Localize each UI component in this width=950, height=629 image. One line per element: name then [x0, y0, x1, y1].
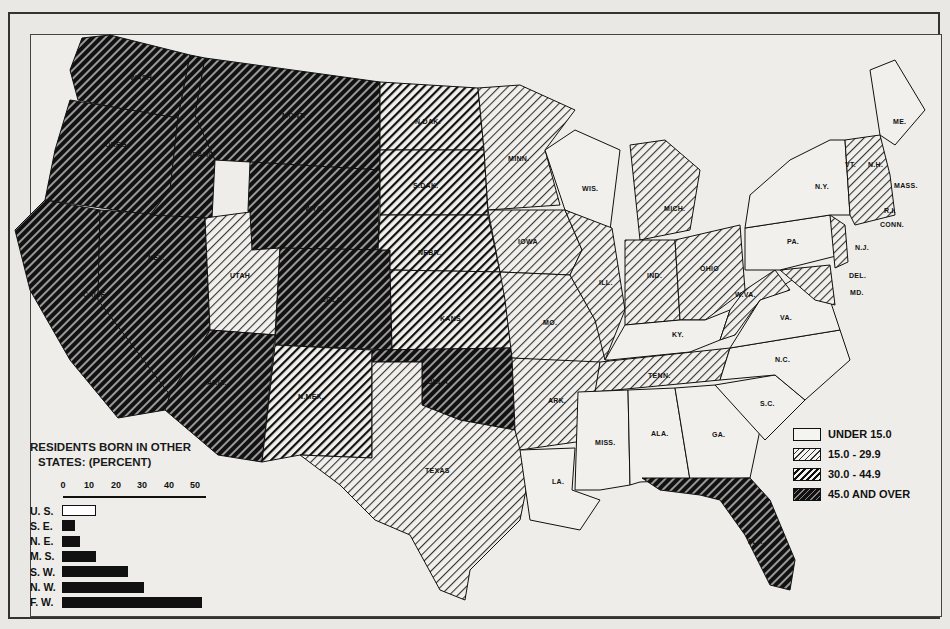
bar-chart-inset: RESIDENTS BORN IN OTHER STATES: (PERCENT… [30, 440, 220, 610]
svg-text:PA.: PA. [787, 238, 799, 245]
inset-title: RESIDENTS BORN IN OTHER STATES: (PERCENT… [30, 440, 220, 470]
legend-item-30-44: 30.0 - 44.9 [793, 464, 943, 484]
svg-text:N.DAK.: N.DAK. [415, 118, 441, 125]
bar-row: U. S. [30, 504, 96, 517]
svg-text:ARIZ.: ARIZ. [207, 379, 227, 386]
svg-text:KY.: KY. [672, 331, 684, 338]
bar [62, 566, 128, 577]
svg-text:W.VA.: W.VA. [735, 291, 756, 298]
svg-text:N.H.: N.H. [868, 161, 883, 168]
bar [62, 551, 96, 562]
state-nj[interactable] [830, 215, 848, 268]
svg-text:ARK.: ARK. [548, 397, 566, 404]
svg-text:CONN.: CONN. [880, 221, 904, 228]
svg-text:MINN.: MINN. [508, 155, 529, 162]
legend-item-15-29: 15.0 - 29.9 [793, 444, 943, 464]
bar-label: S. W. [30, 566, 62, 578]
state-mich[interactable] [630, 140, 700, 240]
bar [62, 536, 80, 547]
bar-label: U. S. [30, 505, 62, 517]
legend-item-under-15: UNDER 15.0 [793, 424, 943, 444]
svg-text:OHIO: OHIO [700, 265, 719, 272]
state-ny [745, 140, 850, 228]
svg-text:N.J.: N.J. [855, 244, 869, 251]
svg-text:WIS.: WIS. [582, 185, 598, 192]
legend-swatch-blank [793, 428, 821, 441]
svg-text:S.DAK.: S.DAK. [413, 182, 439, 189]
bar [62, 597, 202, 608]
legend-swatch-dark-hatch [793, 488, 821, 501]
state-me [870, 60, 925, 145]
svg-text:MISS.: MISS. [595, 439, 616, 446]
svg-text:MONT.: MONT. [282, 112, 305, 119]
bar-row: N. E. [30, 535, 80, 548]
svg-text:CALIF.: CALIF. [83, 291, 107, 298]
bar-row: M. S. [30, 550, 96, 563]
svg-text:COLO.: COLO. [321, 296, 345, 303]
svg-text:MD.: MD. [850, 289, 864, 296]
bar [62, 505, 96, 516]
svg-text:NEBR.: NEBR. [418, 249, 441, 256]
bar-label: M. S. [30, 550, 62, 562]
svg-text:TENN.: TENN. [648, 372, 671, 379]
legend-swatch-light-hatch [793, 448, 821, 461]
svg-text:ILL.: ILL. [599, 279, 613, 286]
svg-text:IND.: IND. [647, 272, 662, 279]
bar-row: S. E. [30, 519, 75, 532]
svg-text:KANS.: KANS. [440, 315, 463, 322]
bar-label: S. E. [30, 520, 62, 532]
inset-title-line2: STATES: (PERCENT) [30, 455, 220, 470]
svg-text:NEV.: NEV. [148, 254, 165, 261]
svg-text:ME.: ME. [893, 118, 906, 125]
x-axis-line [63, 496, 206, 498]
svg-text:OKLA.: OKLA. [427, 378, 450, 385]
bar-row: S. W. [30, 565, 128, 578]
svg-text:OREG.: OREG. [105, 141, 129, 148]
tick-0: 0 [60, 480, 65, 490]
svg-text:MO.: MO. [543, 319, 557, 326]
svg-text:WYO.: WYO. [305, 205, 325, 212]
legend-label: 45.0 AND OVER [828, 488, 910, 500]
tick-40: 40 [164, 480, 174, 490]
svg-text:N.C.: N.C. [775, 356, 790, 363]
bar-label: F. W. [30, 596, 62, 608]
state-oreg[interactable] [45, 100, 178, 215]
state-fla[interactable] [642, 478, 795, 590]
bar [62, 520, 75, 531]
svg-text:IOWA: IOWA [518, 238, 538, 245]
state-nmex[interactable] [262, 345, 372, 462]
bar-row: F. W. [30, 596, 202, 609]
svg-text:WASH.: WASH. [130, 74, 154, 81]
svg-text:DEL.: DEL. [849, 272, 866, 279]
legend-item-45-over: 45.0 AND OVER [793, 484, 943, 504]
svg-text:UTAH: UTAH [230, 272, 250, 279]
tick-30: 30 [137, 480, 147, 490]
svg-text:N.Y.: N.Y. [815, 183, 829, 190]
svg-text:LA.: LA. [552, 478, 564, 485]
state-kans[interactable] [390, 270, 512, 350]
bar [62, 582, 144, 593]
tick-50: 50 [190, 480, 200, 490]
svg-text:IDAHO: IDAHO [190, 151, 214, 158]
legend-label: 30.0 - 44.9 [828, 468, 881, 480]
svg-text:N.MEX.: N.MEX. [298, 393, 324, 400]
legend-label: 15.0 - 29.9 [828, 448, 881, 460]
inset-title-line1: RESIDENTS BORN IN OTHER [30, 441, 191, 453]
legend-swatch-medium-hatch [793, 468, 821, 481]
bar-label: N. E. [30, 535, 62, 547]
svg-text:VA.: VA. [780, 314, 792, 321]
svg-text:R.I.: R.I. [884, 207, 896, 214]
tick-10: 10 [84, 480, 94, 490]
tick-20: 20 [111, 480, 121, 490]
state-ndak[interactable] [380, 82, 484, 150]
bar-label: N. W. [30, 581, 62, 593]
svg-text:ALA.: ALA. [651, 430, 669, 437]
svg-text:GA.: GA. [712, 431, 725, 438]
svg-text:FLA.: FLA. [748, 538, 765, 545]
state-ind[interactable] [625, 240, 680, 325]
legend-label: UNDER 15.0 [828, 428, 892, 440]
svg-text:VT.: VT. [845, 161, 856, 168]
bar-row: N. W. [30, 581, 144, 594]
svg-text:MICH.: MICH. [664, 205, 685, 212]
state-nebr[interactable] [378, 215, 500, 272]
